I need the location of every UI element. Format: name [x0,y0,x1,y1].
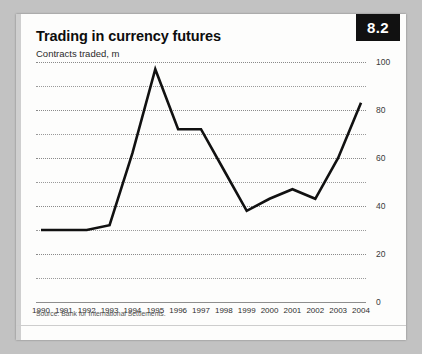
x-axis-tick-label: 2004 [352,306,370,315]
x-axis-tick-label: 1997 [192,306,210,315]
y-axis-tick-label: 80 [376,105,385,115]
y-axis-tick-label: 0 [376,297,381,307]
chart-number-badge: 8.2 [356,14,400,41]
plot-area: 020406080100 199019911992199319941995199… [36,62,376,302]
x-axis-tick-label: 2000 [261,306,279,315]
y-axis-tick-label: 60 [376,153,385,163]
x-axis-tick-label: 1999 [238,306,256,315]
x-axis-tick-label: 1996 [169,306,187,315]
y-axis-tick-label: 40 [376,201,385,211]
data-series-line [36,62,366,302]
x-axis-tick-label: 2001 [284,306,302,315]
y-axis-tick-label: 20 [376,249,385,259]
source-note: Source: Bank for International Settlemen… [36,310,166,317]
x-axis-tick-label: 2003 [329,306,347,315]
chart-card: 8.2 Trading in currency futures Contract… [16,14,406,340]
x-axis-baseline [36,302,366,303]
x-axis-tick-label: 1998 [215,306,233,315]
series-polyline [41,69,361,230]
chart-subtitle: Contracts traded, m [36,48,119,59]
card-left-accent [16,14,21,340]
source-divider [16,325,406,326]
chart-title: Trading in currency futures [36,28,221,44]
y-axis-tick-label: 100 [376,57,390,67]
screenshot-root: 8.2 Trading in currency futures Contract… [0,0,422,354]
x-axis-tick-label: 2002 [306,306,324,315]
